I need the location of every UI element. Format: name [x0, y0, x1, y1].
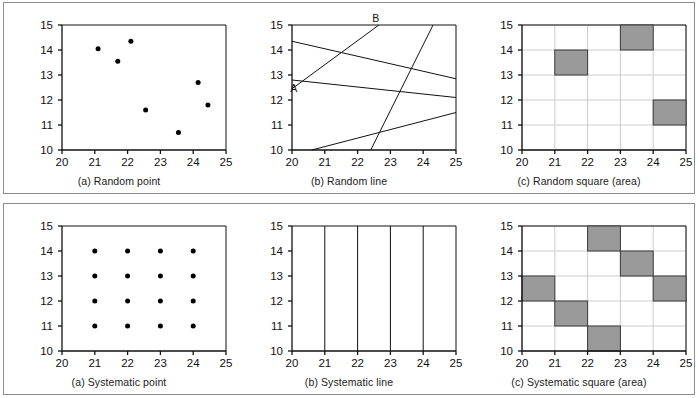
plot-frame — [62, 25, 226, 150]
y-tick-label: 10 — [270, 144, 283, 156]
x-tick-label: 22 — [121, 357, 134, 369]
caption-systematic-square: (c) Systematic square (area) — [464, 376, 694, 388]
data-point — [92, 324, 97, 329]
sample-square — [588, 226, 621, 251]
data-point — [92, 274, 97, 279]
axis-ticks: 202122232425101112131415 — [270, 19, 462, 168]
axis-ticks: 202122232425101112131415 — [270, 220, 462, 369]
x-tick-label: 20 — [516, 357, 529, 369]
data-point — [158, 324, 163, 329]
y-tick-label: 15 — [270, 19, 283, 31]
plot-random-square: 202122232425101112131415 — [464, 3, 694, 193]
x-tick-label: 21 — [88, 357, 101, 369]
y-tick-label: 11 — [41, 320, 53, 332]
y-tick-label: 12 — [40, 295, 53, 307]
sample-line — [312, 113, 456, 151]
x-tick-label: 20 — [56, 156, 69, 168]
x-tick-label: 24 — [187, 357, 200, 369]
data-point — [128, 39, 133, 44]
x-tick-label: 25 — [680, 357, 693, 369]
y-tick-label: 12 — [40, 94, 53, 106]
y-tick-label: 14 — [40, 44, 53, 56]
caption-systematic-point: (a) Systematic point — [4, 376, 234, 388]
x-tick-label: 22 — [351, 357, 364, 369]
x-tick-label: 22 — [581, 156, 594, 168]
x-tick-label: 25 — [450, 156, 463, 168]
y-tick-label: 15 — [500, 220, 513, 232]
axes — [522, 25, 686, 150]
panel-systematic-point: 202122232425101112131415 (a) Systematic … — [4, 204, 234, 394]
x-tick-label: 21 — [88, 156, 101, 168]
x-tick-label: 21 — [548, 357, 561, 369]
sample-square — [522, 276, 555, 301]
sample-squares — [522, 226, 686, 351]
data-points — [96, 39, 211, 135]
x-tick-label: 25 — [220, 156, 233, 168]
sample-square — [555, 301, 588, 326]
data-point — [96, 46, 101, 51]
data-point — [158, 249, 163, 254]
x-tick-label: 20 — [286, 156, 299, 168]
y-tick-label: 12 — [500, 94, 513, 106]
y-tick-label: 11 — [271, 119, 283, 131]
sampling-methods-figure: 202122232425101112131415 (a) Random poin… — [0, 0, 698, 398]
data-point — [176, 130, 181, 135]
plot-systematic-line: 202122232425101112131415 — [234, 204, 464, 394]
line-endpoint-label: B — [372, 12, 379, 24]
caption-random-line: (b) Random line — [234, 175, 464, 187]
x-tick-label: 20 — [516, 156, 529, 168]
y-tick-label: 14 — [500, 245, 513, 257]
gridlines — [522, 25, 686, 150]
x-tick-label: 24 — [187, 156, 200, 168]
x-tick-label: 23 — [154, 357, 167, 369]
x-tick-label: 21 — [548, 156, 561, 168]
x-tick-label: 23 — [384, 156, 397, 168]
x-tick-label: 23 — [154, 156, 167, 168]
y-tick-label: 14 — [270, 44, 283, 56]
y-tick-label: 14 — [270, 245, 283, 257]
x-tick-label: 22 — [351, 156, 364, 168]
y-tick-label: 15 — [270, 220, 283, 232]
y-tick-label: 10 — [500, 345, 513, 357]
y-tick-label: 14 — [40, 245, 53, 257]
plot-frame — [62, 226, 226, 351]
data-point — [143, 108, 148, 113]
x-tick-label: 24 — [417, 156, 430, 168]
y-tick-label: 15 — [40, 220, 53, 232]
chart-svg: 202122232425101112131415 — [234, 204, 466, 394]
axis-ticks: 202122232425101112131415 — [40, 19, 232, 168]
y-tick-label: 12 — [270, 94, 283, 106]
sample-square — [555, 50, 588, 75]
chart-svg: 202122232425101112131415 — [4, 3, 236, 193]
sample-line — [292, 80, 456, 98]
axis-ticks: 202122232425101112131415 — [500, 19, 692, 168]
data-point — [92, 299, 97, 304]
y-tick-label: 12 — [500, 295, 513, 307]
panel-random-square: 202122232425101112131415 (c) Random squa… — [464, 3, 694, 193]
x-tick-label: 23 — [614, 357, 627, 369]
sample-square — [588, 326, 621, 351]
y-tick-label: 14 — [500, 44, 513, 56]
data-points — [92, 249, 195, 329]
sample-line — [371, 25, 433, 150]
x-tick-label: 21 — [318, 156, 331, 168]
caption-random-point: (a) Random point — [4, 175, 234, 187]
plot-frame — [522, 25, 686, 150]
x-tick-label: 23 — [614, 156, 627, 168]
x-tick-label: 22 — [121, 156, 134, 168]
data-point — [125, 299, 130, 304]
y-tick-label: 15 — [40, 19, 53, 31]
data-point — [191, 274, 196, 279]
plot-random-line: AB202122232425101112131415 — [234, 3, 464, 193]
y-tick-label: 10 — [40, 345, 53, 357]
data-point — [196, 80, 201, 85]
plot-frame — [292, 226, 456, 351]
data-lines — [292, 25, 456, 150]
panel-random-point: 202122232425101112131415 (a) Random poin… — [4, 3, 234, 193]
x-tick-label: 22 — [581, 357, 594, 369]
panel-systematic-line: 202122232425101112131415 (b) Systematic … — [234, 204, 464, 394]
x-tick-label: 24 — [417, 357, 430, 369]
y-tick-label: 11 — [501, 320, 513, 332]
y-tick-label: 13 — [500, 69, 513, 81]
x-tick-label: 25 — [450, 357, 463, 369]
